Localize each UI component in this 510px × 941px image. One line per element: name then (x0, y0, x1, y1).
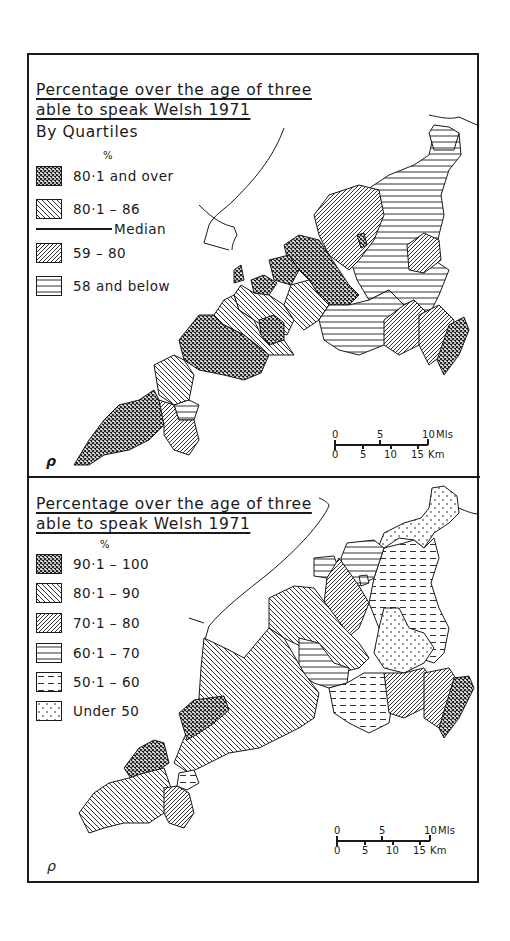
scale-km-10: 10 (386, 845, 399, 856)
legend-item: 80·1 and over (36, 165, 174, 187)
scale-km-5: 5 (362, 845, 369, 856)
scale-tick (427, 439, 429, 445)
median-divider: Median (36, 221, 166, 237)
scale-mile-5: 5 (377, 429, 384, 440)
horizontal-lines-swatch-icon (36, 276, 62, 296)
legend-label: 59 – 80 (73, 245, 126, 261)
legend-label: 50·1 – 60 (73, 674, 140, 690)
map-title: Percentage over the age of three able to… (36, 80, 312, 120)
scale-bar: 0 5 10 Mls 0 5 10 15 Km (334, 825, 464, 865)
island-marker-icon: ρ (46, 453, 56, 469)
legend-item: 80·1 – 90 (36, 582, 140, 604)
legend-item: 60·1 – 70 (36, 642, 140, 664)
median-label: Median (114, 221, 166, 237)
scale-km-0: 0 (332, 449, 339, 460)
scale-mile-10: 10 (422, 429, 435, 440)
dotted-swatch-icon (36, 701, 62, 721)
median-line (36, 228, 112, 230)
scale-miles-unit: Mls (436, 429, 453, 440)
scale-mile-0: 0 (332, 429, 339, 440)
crosshatch-swatch-icon (36, 166, 62, 186)
scale-mile-0: 0 (334, 825, 341, 836)
title-line-2: able to speak Welsh 1971 (36, 514, 312, 534)
legend-label: Under 50 (73, 703, 139, 719)
forward-diagonal-swatch-icon (36, 613, 62, 633)
scale-bar: 0 5 10 Mls 0 5 10 15 Km (332, 429, 462, 469)
unit-label: % (103, 150, 113, 161)
title-line-2: able to speak Welsh 1971 (36, 100, 312, 120)
scale-tick (379, 440, 381, 445)
island-marker-icon: ρ (47, 858, 56, 874)
legend-item: 90·1 – 100 (36, 553, 149, 575)
scale-km-5: 5 (360, 449, 367, 460)
map-title: Percentage over the age of three able to… (36, 494, 312, 534)
scale-mile-5: 5 (379, 825, 386, 836)
horizontal-lines-swatch-icon (36, 643, 62, 663)
legend-label: 80·1 – 86 (73, 201, 140, 217)
unit-label: % (100, 539, 110, 550)
scale-miles-unit: Mls (438, 825, 455, 836)
title-line-1: Percentage over the age of three (36, 494, 312, 514)
scale-km-unit: Km (430, 845, 447, 856)
legend-item: Under 50 (36, 700, 139, 722)
back-diagonal-swatch-icon (36, 199, 62, 219)
scale-tick (381, 836, 383, 841)
scale-line (336, 840, 430, 842)
legend-item: 59 – 80 (36, 242, 126, 264)
scale-km-unit: Km (428, 449, 445, 460)
legend-label: 60·1 – 70 (73, 645, 140, 661)
legend-label: 58 and below (73, 278, 170, 294)
back-diagonal-swatch-icon (36, 583, 62, 603)
legend-item: 70·1 – 80 (36, 612, 140, 634)
scale-km-15: 15 (413, 845, 426, 856)
legend-label: 90·1 – 100 (73, 556, 149, 572)
crosshatch-swatch-icon (36, 554, 62, 574)
legend-item: 50·1 – 60 (36, 671, 140, 693)
map-panel-percent-bands: Percentage over the age of three able to… (29, 478, 478, 882)
legend-item: 80·1 – 86 (36, 198, 140, 220)
dashed-lines-swatch-icon (36, 672, 62, 692)
title-line-1: Percentage over the age of three (36, 80, 312, 100)
map-subtitle: By Quartiles (36, 123, 138, 141)
scale-tick (429, 835, 431, 841)
forward-diagonal-swatch-icon (36, 243, 62, 263)
scale-km-0: 0 (334, 845, 341, 856)
scale-km-10: 10 (384, 449, 397, 460)
legend-label: 80·1 – 90 (73, 585, 140, 601)
scale-line (334, 444, 428, 446)
scale-mile-10: 10 (424, 825, 437, 836)
legend-label: 80·1 and over (73, 168, 174, 184)
legend-label: 70·1 – 80 (73, 615, 140, 631)
scale-km-15: 15 (411, 449, 424, 460)
legend-item: 58 and below (36, 275, 170, 297)
map-panel-quartiles: Percentage over the age of three able to… (29, 55, 478, 476)
